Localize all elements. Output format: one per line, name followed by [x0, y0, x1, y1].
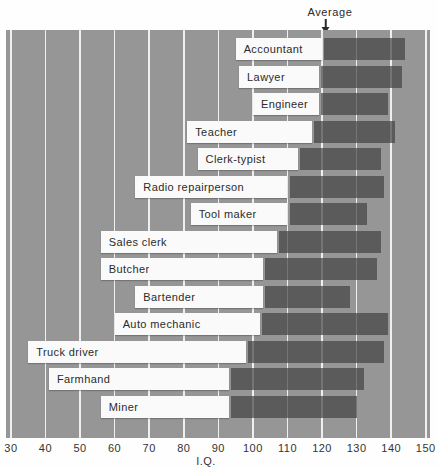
x-tick-label: 50 [73, 442, 86, 454]
average-annotation-label: Average [308, 6, 353, 18]
range-bar-upper [324, 38, 405, 60]
occupation-label: Radio repairperson [135, 176, 244, 198]
x-tick-label: 120 [312, 442, 332, 454]
range-bar-upper [248, 341, 384, 363]
x-tick-label: 100 [243, 442, 263, 454]
range-bar-upper [265, 286, 349, 308]
gridline-iq-140 [390, 30, 392, 438]
gridline-iq-40 [45, 30, 47, 438]
range-bar-upper [262, 313, 388, 335]
range-bar-upper [231, 368, 364, 390]
range-bar-upper [231, 396, 357, 418]
range-bar-upper [290, 203, 368, 225]
plot-area: AccountantLawyerEngineerTeacherClerk-typ… [6, 30, 430, 438]
range-bar-upper [314, 121, 395, 143]
occupation-label: Lawyer [239, 66, 285, 88]
gridline-iq-150 [425, 30, 427, 438]
iq-occupations-figure: Average AccountantLawyerEngineerTeacherC… [0, 0, 438, 468]
x-tick-label: 130 [347, 442, 367, 454]
x-tick-label: 150 [416, 442, 436, 454]
x-tick-label: 60 [108, 442, 121, 454]
occupation-label: Teacher [187, 121, 237, 143]
occupation-label: Miner [101, 396, 139, 418]
occupation-label: Clerk-typist [198, 148, 266, 170]
x-tick-label: 140 [381, 442, 401, 454]
occupation-label: Butcher [101, 258, 150, 280]
occupation-label: Sales clerk [101, 231, 167, 253]
x-tick-label: 70 [143, 442, 156, 454]
x-tick-label: 110 [278, 442, 297, 454]
range-bar-upper [300, 148, 381, 170]
range-bar-upper [321, 93, 388, 115]
occupation-label: Accountant [236, 38, 303, 60]
occupation-label: Tool maker [191, 203, 257, 225]
x-axis-title: I.Q. [196, 455, 216, 467]
range-bar-upper [321, 66, 402, 88]
occupation-label: Bartender [135, 286, 195, 308]
range-bar-upper [279, 231, 381, 253]
x-tick-label: 90 [212, 442, 225, 454]
range-bar-upper [265, 258, 377, 280]
x-tick-label: 80 [177, 442, 190, 454]
x-tick-label: 40 [39, 442, 52, 454]
x-tick-label: 30 [4, 442, 17, 454]
occupation-label: Engineer [253, 93, 308, 115]
occupation-label: Farmhand [49, 368, 110, 390]
occupation-label: Truck driver [28, 341, 98, 363]
range-bar-upper [290, 176, 385, 198]
gridline-iq-30 [10, 30, 12, 438]
occupation-label: Auto mechanic [115, 313, 201, 335]
